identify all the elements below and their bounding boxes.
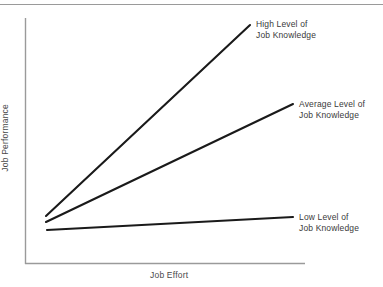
series-label-low: Low Level of Job Knowledge bbox=[299, 212, 359, 234]
series-line-low bbox=[47, 217, 293, 230]
series-line-average bbox=[46, 104, 293, 222]
y-axis-label-text: Job Performance bbox=[0, 104, 10, 172]
chart-figure: Job Performance Job Effort High Level of… bbox=[0, 0, 383, 287]
x-axis-label: Job Effort bbox=[150, 270, 188, 280]
y-axis-label: Job Performance bbox=[0, 104, 10, 172]
series-label-low-line2: Job Knowledge bbox=[299, 223, 359, 234]
series-line-high bbox=[46, 25, 250, 216]
series-label-high-line2: Job Knowledge bbox=[256, 30, 316, 41]
series-label-high: High Level of Job Knowledge bbox=[256, 19, 316, 41]
series-label-low-line1: Low Level of bbox=[299, 212, 349, 222]
series-label-average-line2: Job Knowledge bbox=[299, 110, 365, 121]
series-label-high-line1: High Level of bbox=[256, 19, 308, 29]
series-label-average-line1: Average Level of bbox=[299, 99, 365, 109]
series-label-average: Average Level of Job Knowledge bbox=[299, 99, 365, 121]
plot-area bbox=[0, 0, 383, 287]
